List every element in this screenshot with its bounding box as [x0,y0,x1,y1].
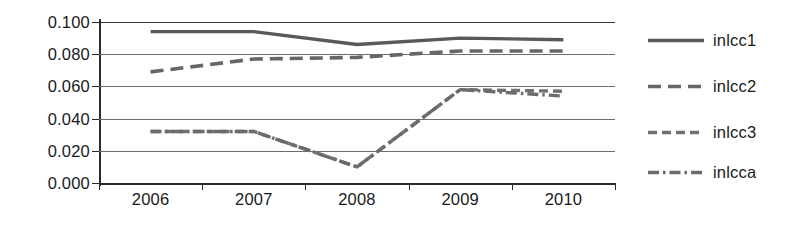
x-tick-label: 2008 [338,190,376,209]
series-line-inlcc3 [151,90,564,167]
series-line-inlcc1 [151,32,564,45]
y-tick-label: 0.060 [48,77,90,96]
line-chart: 0.1000.0800.0600.0400.0200.000 200620072… [0,0,795,233]
y-tick-mark [92,183,99,184]
x-tick-label: 2007 [235,190,273,209]
x-tick-label: 2009 [441,190,479,209]
series-line-inlcc2 [151,51,564,72]
y-tick-mark [92,119,99,120]
legend-label: inlcc3 [713,123,756,142]
y-tick-label: 0.100 [48,13,90,32]
y-axis: 0.1000.0800.0600.0400.0200.000 [0,0,96,233]
y-tick-label: 0.040 [48,109,90,128]
x-tick-label: 2010 [545,190,583,209]
series-lines [99,22,615,183]
y-tick-label: 0.080 [48,45,90,64]
y-tick-label: 0.020 [48,141,90,160]
legend-label: inlcc2 [713,77,756,96]
legend-label: inlcca [713,163,756,182]
x-axis-line [99,183,615,185]
legend-entry-inlcc3[interactable]: inlcc3 [648,123,756,142]
legend-label: inlcc1 [713,31,756,50]
x-tick-mark [202,183,203,190]
y-tick-mark [92,151,99,152]
x-tick-mark [409,183,410,190]
legend-entry-inlcc2[interactable]: inlcc2 [648,77,756,96]
chart-legend: inlcc1inlcc2inlcc3inlcca [648,0,795,233]
legend-line-swatch-dashed-icon [648,79,704,93]
legend-line-swatch-solid-icon [648,33,704,47]
x-tick-mark [615,183,616,190]
y-tick-label: 0.000 [48,174,90,193]
x-axis: 20062007200820092010 [99,190,615,218]
legend-line-swatch-fine-dashed-icon [648,125,704,139]
legend-entry-inlcc1[interactable]: inlcc1 [648,31,756,50]
x-tick-mark [512,183,513,190]
plot-area [99,22,615,183]
y-tick-mark [92,22,99,23]
x-tick-mark [99,183,100,190]
x-tick-label: 2006 [132,190,170,209]
x-tick-mark [305,183,306,190]
series-line-inlcca [151,90,564,167]
y-tick-mark [92,54,99,55]
legend-line-swatch-dash-dot-icon [648,165,704,179]
y-tick-mark [92,86,99,87]
legend-entry-inlcca[interactable]: inlcca [648,163,756,182]
